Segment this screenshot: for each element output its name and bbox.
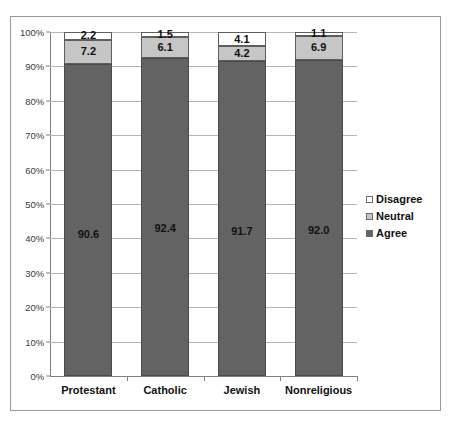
bar-value-label-neutral: 7.2 bbox=[81, 46, 96, 57]
x-axis-tick-mark bbox=[280, 376, 281, 381]
y-axis-tick-mark bbox=[46, 135, 50, 136]
y-axis-tick-label: 40% bbox=[25, 233, 44, 244]
bar-value-label-agree: 92.4 bbox=[154, 223, 175, 234]
x-axis-category-label: Catholic bbox=[143, 384, 186, 396]
x-axis-category-labels: ProtestantCatholicJewishNonreligious bbox=[50, 384, 357, 402]
y-axis-tick-mark bbox=[46, 238, 50, 239]
x-axis-category-label: Nonreligious bbox=[285, 384, 352, 396]
x-axis-category-label: Jewish bbox=[224, 384, 261, 396]
bar-segment-disagree[interactable]: 2.2 bbox=[64, 32, 112, 40]
legend-label: Disagree bbox=[376, 193, 422, 205]
bar-value-label-disagree: 4.1 bbox=[234, 34, 249, 45]
y-axis-tick-label: 80% bbox=[25, 95, 44, 106]
y-axis-tick-mark bbox=[46, 272, 50, 273]
y-axis-tick-mark bbox=[46, 100, 50, 101]
bar-segment-agree[interactable]: 91.7 bbox=[218, 61, 266, 376]
bar-value-label-agree: 91.7 bbox=[231, 226, 252, 237]
chart-frame: 0%10%20%30%40%50%60%70%80%90%100% 90.67.… bbox=[10, 16, 441, 411]
legend-swatch-icon bbox=[366, 213, 373, 220]
y-axis-tick-mark bbox=[46, 32, 50, 33]
y-axis-tick-label: 0% bbox=[30, 371, 44, 382]
x-axis-tick-mark bbox=[357, 376, 358, 381]
chart-legend: DisagreeNeutralAgree bbox=[366, 191, 444, 242]
x-axis-tick-mark bbox=[127, 376, 128, 381]
bar-value-label-agree: 92.0 bbox=[308, 225, 329, 236]
bar-segment-agree[interactable]: 92.4 bbox=[141, 58, 189, 376]
y-axis-tick-label: 10% bbox=[25, 336, 44, 347]
bar-value-label-disagree: 1.5 bbox=[157, 29, 172, 40]
bar-value-label-disagree: 1.1 bbox=[311, 28, 326, 39]
bar-segment-neutral[interactable]: 6.1 bbox=[141, 37, 189, 58]
legend-swatch-icon bbox=[366, 196, 373, 203]
plot-area: 0%10%20%30%40%50%60%70%80%90%100% 90.67.… bbox=[50, 32, 357, 376]
bar-segment-disagree[interactable]: 1.1 bbox=[295, 32, 343, 36]
legend-item-disagree[interactable]: Disagree bbox=[366, 191, 444, 207]
bar-group[interactable]: 92.46.11.5 bbox=[141, 32, 189, 376]
y-axis-tick-label: 60% bbox=[25, 164, 44, 175]
y-axis-tick-mark bbox=[46, 204, 50, 205]
y-axis-tick-label: 70% bbox=[25, 130, 44, 141]
legend-label: Neutral bbox=[376, 210, 414, 222]
x-axis-category-label: Protestant bbox=[61, 384, 115, 396]
x-axis-tick-mark bbox=[204, 376, 205, 381]
legend-swatch-icon bbox=[366, 230, 373, 237]
bar-value-label-neutral: 4.2 bbox=[234, 48, 249, 59]
y-axis-tick-label: 20% bbox=[25, 302, 44, 313]
bar-value-label-neutral: 6.1 bbox=[157, 42, 172, 53]
bar-segment-disagree[interactable]: 1.5 bbox=[141, 32, 189, 37]
y-axis-tick-label: 100% bbox=[20, 27, 44, 38]
bar-group[interactable]: 91.74.24.1 bbox=[218, 32, 266, 376]
y-axis-tick-mark bbox=[46, 341, 50, 342]
y-axis-tick-mark bbox=[46, 66, 50, 67]
stacked-bar[interactable]: 92.46.11.5 bbox=[141, 32, 189, 376]
legend-item-neutral[interactable]: Neutral bbox=[366, 208, 444, 224]
y-axis-tick-mark bbox=[46, 169, 50, 170]
y-axis-tick-mark bbox=[46, 307, 50, 308]
bar-segment-neutral[interactable]: 7.2 bbox=[64, 40, 112, 65]
bar-segment-disagree[interactable]: 4.1 bbox=[218, 32, 266, 46]
stacked-bar[interactable]: 92.06.91.1 bbox=[295, 32, 343, 376]
y-axis-tick-label: 30% bbox=[25, 267, 44, 278]
legend-label: Agree bbox=[376, 227, 407, 239]
bar-segment-neutral[interactable]: 4.2 bbox=[218, 46, 266, 60]
bar-segment-agree[interactable]: 92.0 bbox=[295, 60, 343, 376]
y-axis-tick-label: 50% bbox=[25, 199, 44, 210]
y-axis-tick-label: 90% bbox=[25, 61, 44, 72]
legend-item-agree[interactable]: Agree bbox=[366, 225, 444, 241]
bar-group[interactable]: 92.06.91.1 bbox=[295, 32, 343, 376]
bar-value-label-disagree: 2.2 bbox=[81, 30, 96, 41]
y-axis-tick-mark bbox=[46, 376, 50, 377]
bar-segment-agree[interactable]: 90.6 bbox=[64, 64, 112, 376]
bar-value-label-agree: 90.6 bbox=[78, 229, 99, 240]
stacked-bar[interactable]: 90.67.22.2 bbox=[64, 32, 112, 376]
bar-value-label-neutral: 6.9 bbox=[311, 42, 326, 53]
bar-group[interactable]: 90.67.22.2 bbox=[64, 32, 112, 376]
stacked-bar[interactable]: 91.74.24.1 bbox=[218, 32, 266, 376]
